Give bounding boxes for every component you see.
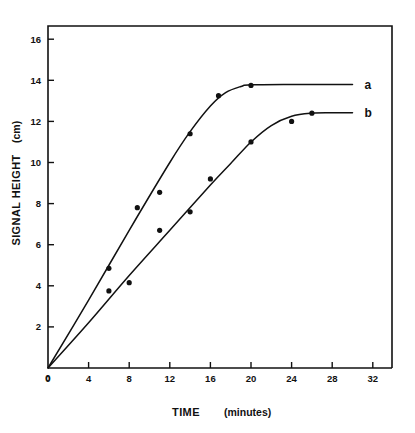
- data-point-b: [157, 228, 162, 233]
- data-point-b: [188, 209, 193, 214]
- series-label-a: a: [365, 78, 372, 92]
- y-axis-tick-label: 0: [45, 372, 50, 383]
- data-point-b: [289, 119, 294, 124]
- data-point-a: [135, 205, 140, 210]
- series-label-b: b: [365, 106, 372, 120]
- data-point-b: [106, 288, 111, 293]
- y-axis-tick-label: 6: [36, 239, 41, 250]
- data-point-a: [188, 131, 193, 136]
- y-axis-tick-label: 4: [36, 280, 42, 291]
- y-axis-tick-label: 12: [30, 116, 41, 127]
- y-axis-tick-label: 14: [30, 75, 41, 86]
- x-axis-tick-label: 32: [368, 373, 379, 384]
- data-point-a: [248, 83, 253, 88]
- data-point-b: [309, 111, 314, 116]
- figure-container: 048121620242832 0246810121416 ab TIME (m…: [0, 0, 415, 433]
- x-axis-tick-label: 24: [286, 373, 297, 384]
- y-axis-tick-label: 2: [36, 321, 41, 332]
- y-axis-title: SIGNAL HEIGHT (cm): [10, 121, 22, 246]
- data-point-b: [127, 280, 132, 285]
- data-point-b: [208, 176, 213, 181]
- x-axis-tick-label: 4: [86, 373, 92, 384]
- chart-svg: 048121620242832 0246810121416 ab TIME (m…: [0, 0, 415, 433]
- x-axis-tick-label: 20: [246, 373, 257, 384]
- x-axis-tick-label: 28: [327, 373, 338, 384]
- data-point-a: [106, 266, 111, 271]
- y-axis-tick-label: 16: [30, 34, 41, 45]
- y-axis-title-unit: (cm): [10, 121, 22, 143]
- x-axis-tick-label: 16: [205, 373, 216, 384]
- x-axis-title-unit: (minutes): [224, 406, 271, 418]
- y-axis-tick-label: 10: [30, 157, 41, 168]
- x-axis-tick-label: 12: [165, 373, 176, 384]
- data-point-a: [157, 190, 162, 195]
- data-point-a: [216, 93, 221, 98]
- x-axis-title-main: TIME: [172, 406, 200, 418]
- y-axis-title-main: SIGNAL HEIGHT: [10, 154, 22, 245]
- y-axis-tick-label: 8: [36, 198, 41, 209]
- data-point-b: [248, 139, 253, 144]
- x-axis-tick-label: 8: [127, 373, 132, 384]
